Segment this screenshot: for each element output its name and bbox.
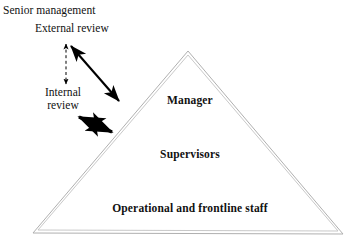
label-external-review: External review [35, 22, 109, 35]
label-tier-manager: Manager [167, 94, 213, 107]
internal-review-to-supervisors-arrow [79, 117, 112, 132]
label-tier-frontline: Operational and frontline staff [112, 202, 268, 215]
label-senior-management: Senior management [3, 4, 96, 17]
label-internal-review-line2: review [47, 99, 79, 111]
label-internal-review-line1: Internal [45, 86, 81, 98]
diagram-canvas: Senior management External review Intern… [0, 0, 359, 250]
label-tier-supervisors: Supervisors [160, 148, 220, 161]
label-internal-review: Internal review [28, 86, 98, 112]
